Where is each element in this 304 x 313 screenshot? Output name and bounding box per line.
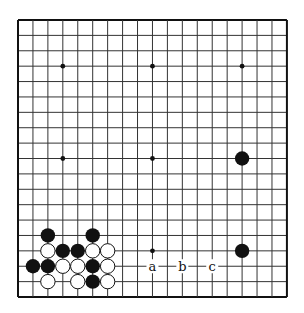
white-stone-icon — [56, 259, 70, 273]
black-stone-icon — [86, 274, 100, 288]
label-c: c — [209, 259, 216, 274]
star-point-icon — [150, 156, 155, 161]
star-point-icon — [150, 64, 155, 69]
black-stone-icon — [86, 259, 100, 273]
white-stone-icon — [100, 259, 114, 273]
black-stone-icon — [41, 259, 55, 273]
star-point-icon — [60, 64, 65, 69]
black-stone-icon — [26, 259, 40, 273]
white-stone-icon — [71, 274, 85, 288]
black-stone-icon — [71, 244, 85, 258]
star-point-icon — [150, 248, 155, 253]
go-board: abc — [0, 0, 304, 313]
white-stone-icon — [86, 244, 100, 258]
black-stone-icon — [86, 228, 100, 242]
black-stone-icon — [56, 244, 70, 258]
black-stone-icon — [235, 151, 249, 165]
star-point-icon — [240, 64, 245, 69]
black-stone-icon — [235, 244, 249, 258]
white-stone-icon — [41, 244, 55, 258]
white-stone-icon — [41, 274, 55, 288]
white-stone-icon — [100, 274, 114, 288]
black-stone-icon — [41, 228, 55, 242]
white-stone-icon — [100, 244, 114, 258]
label-a: a — [149, 259, 157, 274]
white-stone-icon — [71, 259, 85, 273]
label-b: b — [178, 259, 186, 274]
star-point-icon — [60, 156, 65, 161]
